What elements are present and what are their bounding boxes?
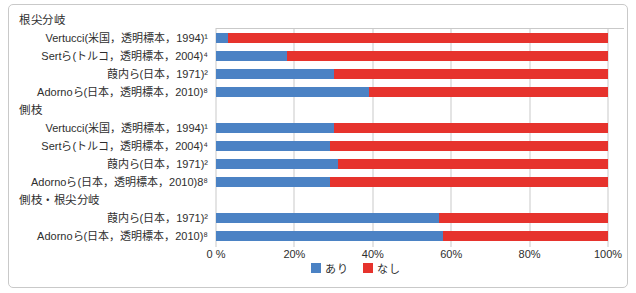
group-header: 側枝・根尖分岐 (9, 191, 100, 209)
bar-segment-present (216, 51, 287, 61)
bar-segment-present (216, 213, 439, 223)
legend-label: なし (377, 260, 401, 276)
bar-segment-absent (369, 87, 608, 97)
bar-row: Vertucci(米国，透明標本，1994)¹ (9, 119, 627, 137)
bar-row: Adornoら(日本，透明標本，2010)⁸ (9, 83, 627, 101)
row-plot (216, 47, 608, 65)
row-plot (216, 155, 608, 173)
row-plot (216, 137, 608, 155)
group-header-row: 側枝・根尖分岐 (9, 191, 627, 209)
axis-tick-label: 100% (594, 248, 622, 260)
legend-swatch-present-icon (311, 263, 321, 273)
stacked-bar (216, 123, 608, 133)
chart-card: 根尖分岐 Vertucci(米国，透明標本，1994)¹ Sertら(トルコ，透… (8, 4, 628, 288)
stacked-bar (216, 213, 608, 223)
bar-row: 葭内ら(日本，1971)² (9, 209, 627, 227)
row-plot (216, 29, 608, 47)
axis-tick-label: 20% (283, 248, 305, 260)
bar-row: 葭内ら(日本，1971)² (9, 155, 627, 173)
axis-tick-label: 0 % (207, 248, 226, 260)
group-header: 根尖分岐 (9, 11, 65, 29)
row-plot (216, 83, 608, 101)
bar-row: Sertら(トルコ，透明標本，2004)⁴ (9, 47, 627, 65)
row-label: Adornoら(日本，透明標本，2010)⁸ (9, 83, 216, 101)
bar-segment-present (216, 141, 330, 151)
bar-segment-absent (439, 213, 608, 223)
row-plot (216, 173, 608, 191)
axis-tick-label: 60% (440, 248, 462, 260)
row-label: 葭内ら(日本，1971)² (9, 65, 216, 83)
row-plot (216, 227, 608, 245)
bar-row: Adornoら(日本，透明標本，2010)8⁸ (9, 173, 627, 191)
bar-segment-present (216, 177, 330, 187)
row-label: 葭内ら(日本，1971)² (9, 155, 216, 173)
bar-segment-absent (287, 51, 608, 61)
chart-rows: 根尖分岐 Vertucci(米国，透明標本，1994)¹ Sertら(トルコ，透… (9, 11, 627, 245)
stacked-bar (216, 141, 608, 151)
bar-segment-present (216, 33, 228, 43)
legend-swatch-absent-icon (363, 263, 373, 273)
row-plot (216, 119, 608, 137)
bar-segment-present (216, 69, 334, 79)
stacked-bar (216, 33, 608, 43)
row-label: Adornoら(日本，透明標本，2010)⁸ (9, 227, 216, 245)
group-header-row: 根尖分岐 (9, 11, 627, 29)
row-label: Sertら(トルコ，透明標本，2004)⁴ (9, 47, 216, 65)
row-label: Sertら(トルコ，透明標本，2004)⁴ (9, 137, 216, 155)
stacked-bar (216, 69, 608, 79)
bar-segment-absent (330, 177, 608, 187)
bar-segment-absent (334, 123, 608, 133)
row-label: Vertucci(米国，透明標本，1994)¹ (9, 119, 216, 137)
bar-segment-absent (330, 141, 608, 151)
axis-tick-label: 40% (362, 248, 384, 260)
bar-segment-absent (334, 69, 608, 79)
legend-label: あり (325, 260, 349, 276)
legend: あり なし (311, 260, 401, 276)
stacked-bar (216, 51, 608, 61)
row-label: Vertucci(米国，透明標本，1994)¹ (9, 29, 216, 47)
legend-item-absent: なし (363, 260, 401, 276)
row-plot (216, 65, 608, 83)
legend-item-present: あり (311, 260, 349, 276)
bar-segment-absent (228, 33, 608, 43)
stacked-bar (216, 177, 608, 187)
bar-segment-present (216, 159, 338, 169)
bar-segment-present (216, 123, 334, 133)
axis-tick-label: 80% (519, 248, 541, 260)
stacked-bar (216, 159, 608, 169)
bar-row: Sertら(トルコ，透明標本，2004)⁴ (9, 137, 627, 155)
group-header-row: 側枝 (9, 101, 627, 119)
stacked-bar (216, 231, 608, 241)
bar-segment-absent (443, 231, 608, 241)
bar-row: Adornoら(日本，透明標本，2010)⁸ (9, 227, 627, 245)
bar-segment-present (216, 231, 443, 241)
row-label: 葭内ら(日本，1971)² (9, 209, 216, 227)
row-label: Adornoら(日本，透明標本，2010)8⁸ (9, 173, 216, 191)
stacked-bar (216, 87, 608, 97)
bar-row: 葭内ら(日本，1971)² (9, 65, 627, 83)
row-plot (216, 209, 608, 227)
bar-row: Vertucci(米国，透明標本，1994)¹ (9, 29, 627, 47)
x-axis: 0 % 20% 40% 60% 80% 100% (216, 248, 608, 261)
bar-segment-present (216, 87, 369, 97)
bar-segment-absent (338, 159, 608, 169)
group-header: 側枝 (9, 101, 42, 119)
